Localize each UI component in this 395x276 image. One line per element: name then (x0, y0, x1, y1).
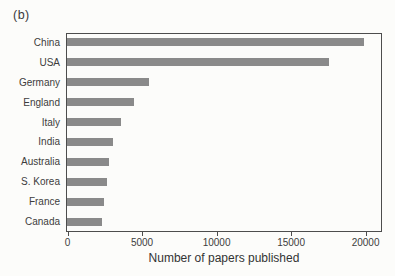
x-tick-label: 20000 (352, 237, 380, 248)
y-tick-label: England (0, 98, 60, 108)
y-tick-label: Canada (0, 217, 60, 227)
y-tick-label: Australia (0, 157, 60, 167)
y-tick-label: France (0, 197, 60, 207)
x-tick-mark (217, 232, 218, 236)
x-tick-mark (366, 232, 367, 236)
bar-france (67, 198, 104, 206)
bar-canada (67, 218, 102, 226)
y-tick-label: India (0, 137, 60, 147)
x-tick-label: 10000 (203, 237, 231, 248)
x-tick-label: 15000 (277, 237, 305, 248)
bar-italy (67, 118, 121, 126)
x-tick-mark (68, 232, 69, 236)
bar-india (67, 138, 113, 146)
x-tick-mark (291, 232, 292, 236)
x-tick-mark (142, 232, 143, 236)
y-tick-label: China (0, 38, 60, 48)
bar-england (67, 98, 134, 106)
bar-australia (67, 158, 109, 166)
bar-s-korea (67, 178, 107, 186)
x-tick-label: 0 (65, 237, 71, 248)
y-tick-label: S. Korea (0, 177, 60, 187)
figure-label: (b) (13, 8, 30, 22)
x-axis-title: Number of papers published (66, 251, 382, 265)
bar-germany (67, 78, 149, 86)
figure: (b) Number of papers published ChinaUSAG… (0, 0, 395, 276)
bar-china (67, 38, 364, 46)
bar-usa (67, 58, 329, 66)
y-tick-label: USA (0, 58, 60, 68)
x-tick-label: 5000 (131, 237, 153, 248)
y-tick-label: Germany (0, 78, 60, 88)
plot-area (66, 33, 382, 232)
y-tick-label: Italy (0, 118, 60, 128)
